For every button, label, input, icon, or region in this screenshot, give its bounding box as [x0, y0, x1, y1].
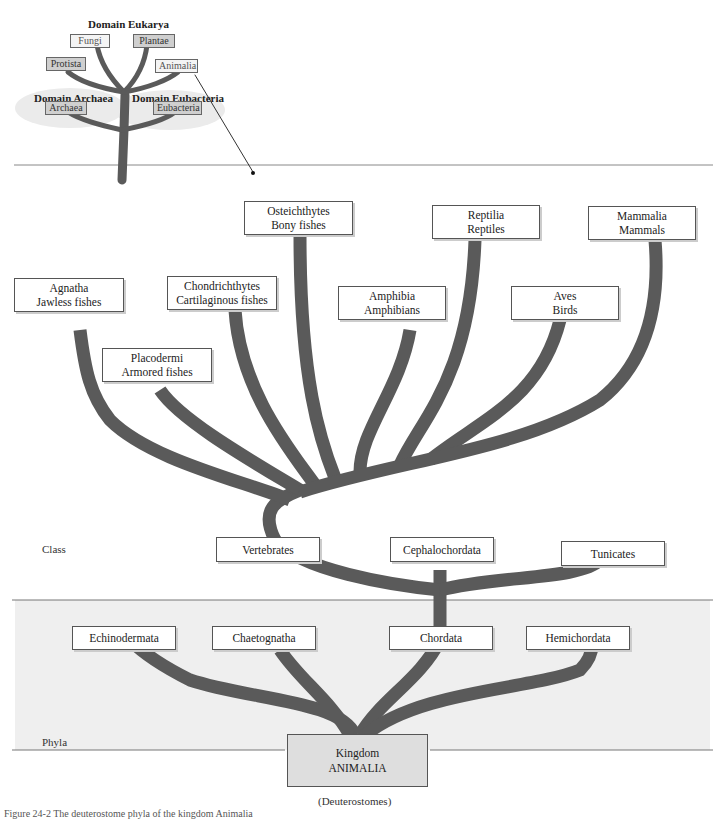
- class-common-name: Amphibians: [364, 303, 420, 317]
- subphylum-cephalochordata-label: Cephalochordata: [390, 537, 494, 562]
- subphylum-vertebrates-label: Vertebrates: [216, 537, 320, 562]
- rank-class-label: Class: [42, 543, 66, 555]
- class-mammalia-label: Mammalia Mammals: [588, 206, 696, 240]
- kingdom-fungi-label: Fungi: [70, 34, 110, 48]
- kingdom-animalia-label: Animalia: [155, 59, 198, 73]
- figure-caption: Figure 24-2 The deuterostome phyla of th…: [4, 808, 253, 819]
- class-common-name: Cartilaginous fishes: [176, 293, 268, 307]
- class-aves-label: Aves Birds: [511, 286, 619, 320]
- phylum-chordata-label: Chordata: [389, 626, 493, 650]
- class-name: Amphibia: [369, 289, 415, 303]
- deuterostomes-label: (Deuterostomes): [318, 795, 391, 807]
- class-common-name: Mammals: [619, 223, 665, 237]
- class-name: Osteichthytes: [267, 204, 330, 218]
- class-name: Mammalia: [617, 209, 667, 223]
- class-osteichthytes-label: Osteichthytes Bony fishes: [244, 201, 353, 235]
- phylum-echinodermata-label: Echinodermata: [72, 626, 176, 650]
- class-name: Chondrichthytes: [184, 279, 260, 293]
- phylum-chaetognatha-label: Chaetognatha: [212, 626, 316, 650]
- domain-eukarya-label: Domain Eukarya: [88, 18, 169, 30]
- kingdom-protista-label: Protista: [46, 57, 86, 71]
- class-common-name: Birds: [553, 303, 578, 317]
- kingdom-eubacteria-label: Eubacteria: [153, 101, 202, 115]
- phylum-hemichordata-label: Hemichordata: [526, 626, 630, 650]
- kingdom-plantae-label: Plantae: [133, 34, 175, 48]
- class-name: Agnatha: [50, 281, 89, 295]
- subphylum-tunicates-label: Tunicates: [561, 541, 665, 566]
- rank-phyla-label: Phyla: [42, 736, 67, 748]
- class-name: Aves: [554, 289, 577, 303]
- class-placodermi-label: Placodermi Armored fishes: [102, 348, 212, 382]
- class-name: Placodermi: [131, 351, 183, 365]
- class-chondrichthytes-label: Chondrichthytes Cartilaginous fishes: [167, 276, 277, 310]
- class-agnatha-label: Agnatha Jawless fishes: [14, 278, 124, 312]
- kingdom-archaea-label: Archaea: [45, 101, 87, 115]
- class-common-name: Armored fishes: [121, 365, 192, 379]
- kingdom-animalia-root: Kingdom ANIMALIA: [287, 734, 428, 787]
- class-common-name: Jawless fishes: [37, 295, 102, 309]
- class-reptilia-label: Reptilia Reptiles: [432, 205, 540, 239]
- class-amphibia-label: Amphibia Amphibians: [338, 286, 446, 320]
- class-name: Reptilia: [468, 208, 504, 222]
- class-common-name: Reptiles: [467, 222, 505, 236]
- root-line1: Kingdom: [288, 746, 427, 761]
- class-common-name: Bony fishes: [271, 218, 326, 232]
- root-line2: ANIMALIA: [288, 761, 427, 776]
